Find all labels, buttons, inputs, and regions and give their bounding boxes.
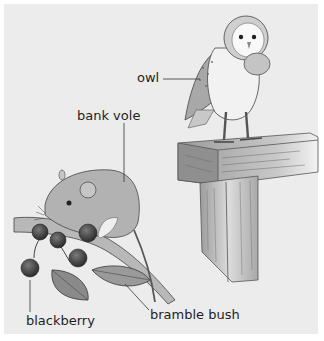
- blackberries: [21, 224, 97, 277]
- bramble-bush-label: bramble bush: [150, 308, 240, 322]
- wooden-post: [178, 133, 318, 282]
- food-chain-illustration: [0, 0, 324, 341]
- owl-label: owl: [137, 71, 159, 85]
- bank-vole-label: bank vole: [77, 109, 140, 123]
- blackberry-label: blackberry: [26, 314, 95, 328]
- bramble-bush-leader-line: [125, 284, 149, 310]
